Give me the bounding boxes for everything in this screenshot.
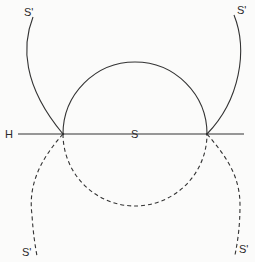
- upper-circle-arc: [63, 62, 207, 134]
- label-top-right: S': [237, 4, 246, 16]
- label-center: S: [131, 128, 138, 140]
- left-intersection-point: [62, 133, 64, 135]
- label-bottom-left: S': [22, 246, 31, 258]
- right-intersection-point: [206, 133, 208, 135]
- lower-right-curve: [207, 134, 240, 255]
- label-top-left: S': [24, 6, 33, 18]
- upper-left-curve: [27, 17, 63, 134]
- lower-circle-arc: [63, 134, 207, 206]
- diagram: H S S' S' S' S': [0, 0, 255, 262]
- label-bottom-right: S': [239, 243, 248, 255]
- lower-left-curve: [31, 134, 63, 256]
- upper-right-curve: [207, 15, 241, 134]
- label-horizon: H: [5, 128, 13, 140]
